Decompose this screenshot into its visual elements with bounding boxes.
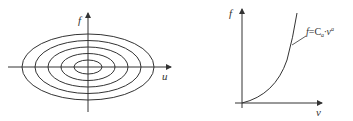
power-curve [242,13,297,103]
leader-line [292,36,306,45]
left-diagram: f u [8,13,171,112]
x-axis-label: u [162,70,168,82]
curve-equation-label: f=Ca·va [306,26,334,38]
figure-canvas: f u f v f=Ca·va [0,0,353,121]
y-axis-label: f [229,7,234,19]
right-diagram: f v f=Ca·va [229,7,334,118]
y-axis-label: f [78,14,83,26]
x-axis-label: v [316,106,321,118]
